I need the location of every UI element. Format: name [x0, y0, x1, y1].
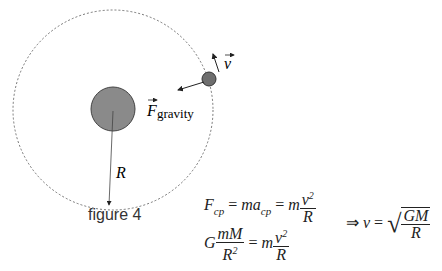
radius-label: R — [115, 164, 126, 181]
gravity-equation: GmMR2 = mv2R — [204, 226, 289, 263]
figure-caption: figure 4 — [88, 206, 141, 224]
force-subscript: gravity — [157, 106, 194, 121]
velocity-result: ⇒ v = √GMR — [346, 207, 430, 241]
centripetal-equation: Fcp = macp = mv2R — [204, 188, 316, 225]
force-label: F — [146, 102, 157, 119]
gravity-force-arrow — [178, 82, 204, 90]
moon — [202, 72, 216, 86]
velocity-label: v — [224, 55, 232, 72]
planet — [91, 87, 135, 131]
velocity-arrow — [213, 54, 219, 72]
